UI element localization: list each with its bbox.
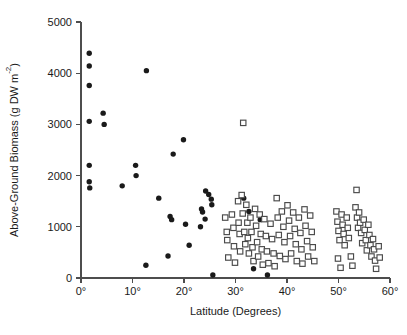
data-point-square — [281, 224, 286, 229]
data-point-square — [302, 207, 307, 212]
data-point-square — [345, 225, 350, 230]
x-tick-label: 10° — [124, 285, 141, 297]
scatter-plot-figure: 0100020003000400050000°10°20°30°40°50°60… — [0, 0, 407, 335]
data-point-square — [294, 258, 299, 263]
data-point-square — [290, 210, 295, 215]
data-point-square — [268, 221, 273, 226]
data-points — [87, 51, 383, 278]
data-point-square — [224, 229, 229, 234]
data-point-circle — [87, 185, 92, 190]
data-point-square — [271, 251, 276, 256]
data-point-circle — [202, 216, 207, 221]
data-point-circle — [87, 51, 92, 56]
y-tick-label: 3000 — [48, 118, 72, 130]
data-point-square — [223, 215, 228, 220]
data-point-square — [370, 236, 375, 241]
data-point-square — [236, 220, 241, 225]
data-point-circle — [209, 196, 214, 201]
axis-titles: Latitude (Degrees)Above-Ground Biomass (… — [4, 63, 282, 317]
data-point-square — [240, 211, 245, 216]
data-point-circle — [246, 209, 251, 214]
y-tick-label: 1000 — [48, 221, 72, 233]
data-point-square — [242, 229, 247, 234]
data-point-circle — [87, 83, 92, 88]
data-point-square — [285, 203, 290, 208]
data-point-square — [263, 233, 268, 238]
data-point-square — [225, 237, 230, 242]
data-point-square — [237, 249, 242, 254]
data-point-square — [274, 195, 279, 200]
x-tick-label: 20° — [176, 285, 193, 297]
data-point-square — [310, 245, 315, 250]
data-point-circle — [156, 195, 161, 200]
data-point-circle — [87, 179, 92, 184]
data-point-square — [245, 235, 250, 240]
x-tick-label: 40° — [279, 285, 296, 297]
x-tick-label: 30° — [227, 285, 244, 297]
data-point-square — [354, 187, 359, 192]
data-point-square — [264, 249, 269, 254]
data-point-square — [296, 215, 301, 220]
data-point-square — [303, 223, 308, 228]
y-tick-label: 4000 — [48, 67, 72, 79]
data-point-square — [312, 258, 317, 263]
data-point-square — [260, 262, 265, 267]
data-point-square — [304, 238, 309, 243]
data-point-circle — [209, 202, 214, 207]
data-point-circle — [133, 173, 138, 178]
data-point-square — [350, 263, 355, 268]
data-point-square — [335, 256, 340, 261]
data-point-square — [272, 264, 277, 269]
data-point-square — [298, 230, 303, 235]
data-point-circle — [265, 272, 270, 277]
data-point-circle — [210, 272, 215, 277]
data-point-square — [255, 254, 260, 259]
data-point-square — [243, 242, 248, 247]
data-point-square — [269, 236, 274, 241]
axes — [81, 22, 390, 278]
data-point-square — [299, 247, 304, 252]
data-point-circle — [186, 243, 191, 248]
data-point-circle — [165, 253, 170, 258]
data-point-square — [252, 206, 257, 211]
data-point-circle — [206, 192, 211, 197]
data-point-square — [376, 244, 381, 249]
data-point-square — [246, 251, 251, 256]
data-point-square — [226, 255, 231, 260]
data-point-square — [232, 260, 237, 265]
data-point-circle — [144, 68, 149, 73]
data-point-square — [288, 251, 293, 256]
y-tick-label: 2000 — [48, 170, 72, 182]
data-point-circle — [200, 209, 205, 214]
data-point-circle — [169, 217, 174, 222]
data-point-circle — [183, 222, 188, 227]
data-point-square — [373, 266, 378, 271]
data-point-square — [277, 253, 282, 258]
y-tick-label: 0 — [66, 272, 72, 284]
x-tick-label: 50° — [330, 285, 347, 297]
data-point-square — [348, 254, 353, 259]
data-point-square — [287, 233, 292, 238]
data-point-square — [305, 254, 310, 259]
data-point-square — [377, 255, 382, 260]
data-point-circle — [100, 110, 105, 115]
series-open-squares — [223, 120, 383, 271]
data-point-circle — [198, 224, 203, 229]
data-point-square — [249, 229, 254, 234]
data-point-square — [229, 212, 234, 217]
data-point-circle — [87, 63, 92, 68]
data-point-square — [248, 215, 253, 220]
data-point-square — [366, 222, 371, 227]
data-point-square — [276, 232, 281, 237]
data-point-square — [275, 215, 280, 220]
data-point-circle — [251, 266, 256, 271]
data-point-square — [293, 242, 298, 247]
data-point-circle — [143, 263, 148, 268]
data-point-square — [344, 215, 349, 220]
data-point-square — [286, 218, 291, 223]
data-point-square — [282, 239, 287, 244]
data-point-circle — [133, 163, 138, 168]
data-point-square — [338, 265, 343, 270]
data-point-square — [342, 243, 347, 248]
data-point-circle — [101, 122, 106, 127]
